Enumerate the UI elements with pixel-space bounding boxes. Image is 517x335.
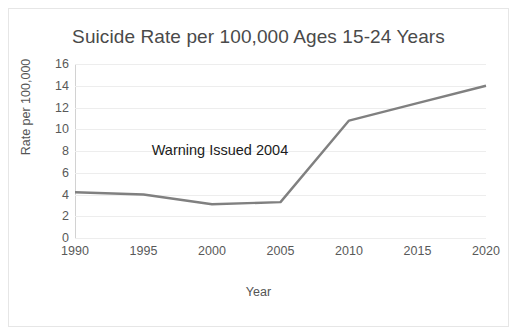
x-axis-label: Year bbox=[0, 285, 517, 299]
plot-area: Warning Issued 2004 bbox=[75, 64, 486, 238]
x-tick-label: 2020 bbox=[456, 244, 516, 258]
gridline-y-0 bbox=[75, 238, 486, 239]
x-tick-label: 1990 bbox=[45, 244, 105, 258]
chart-screenshot: Suicide Rate per 100,000 Ages 15-24 Year… bbox=[0, 0, 517, 335]
y-tick-label: 2 bbox=[26, 209, 69, 223]
y-tick-label: 4 bbox=[26, 188, 69, 202]
annotation-label: Warning Issued 2004 bbox=[152, 142, 289, 158]
chart-title: Suicide Rate per 100,000 Ages 15-24 Year… bbox=[0, 26, 517, 48]
y-tick-label: 8 bbox=[26, 144, 69, 158]
y-tick-label: 12 bbox=[26, 101, 69, 115]
y-axis-tick-labels: 0246810121416 bbox=[26, 64, 69, 238]
y-tick-label: 16 bbox=[26, 57, 69, 71]
y-tick-label: 14 bbox=[26, 79, 69, 93]
y-tick-label: 10 bbox=[26, 122, 69, 136]
y-tick-label: 6 bbox=[26, 166, 69, 180]
x-axis-tick-labels: 1990199520002005201020152020 bbox=[75, 244, 486, 264]
x-tick-label: 2005 bbox=[251, 244, 311, 258]
x-tick-label: 2000 bbox=[182, 244, 242, 258]
x-tick-label: 2015 bbox=[388, 244, 448, 258]
y-tick-label: 0 bbox=[26, 231, 69, 245]
x-tick-label: 1995 bbox=[114, 244, 174, 258]
x-tick-label: 2010 bbox=[319, 244, 379, 258]
